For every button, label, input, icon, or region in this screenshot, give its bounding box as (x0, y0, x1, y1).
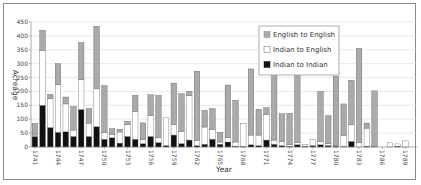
x-tick-label: 1771 (263, 150, 270, 165)
bars (32, 26, 408, 147)
bar-stack-1780 (333, 76, 339, 147)
bar-segment (140, 123, 146, 140)
bar-stack-1761 (186, 91, 192, 147)
bar-segment (109, 129, 115, 135)
bar-stack-1741 (32, 123, 38, 147)
bar-stack-1743 (48, 95, 54, 148)
bar-stack-1774 (287, 113, 293, 147)
bar-stack-1778 (318, 91, 324, 147)
bar-segment (94, 127, 100, 147)
bar-stack-1750 (102, 86, 108, 147)
stacked-bar-chart: 050100150200250300350400450 174117441747… (0, 0, 421, 185)
bar-segment (40, 50, 46, 105)
bar-stack-1771 (264, 108, 270, 147)
bar-segment (55, 132, 61, 147)
legend-swatch-white (264, 47, 270, 53)
bar-segment (271, 144, 277, 147)
x-tick-label: 1753 (125, 150, 132, 165)
bar-segment (63, 132, 69, 147)
bar-stack-1755 (140, 123, 146, 147)
bar-segment (117, 129, 123, 132)
bar-segment (102, 86, 108, 133)
bar-segment (248, 135, 254, 145)
bar-segment (71, 136, 77, 147)
bar-segment (117, 132, 123, 143)
bar-segment (156, 143, 162, 147)
bar-segment (132, 139, 138, 147)
bar-segment (94, 26, 100, 89)
legend-label: Indian to English (273, 46, 331, 54)
bar-stack-1788 (395, 144, 401, 147)
bar-segment (318, 145, 324, 147)
bar-stack-1782 (349, 80, 355, 147)
bar-segment (179, 131, 185, 144)
bar-segment (233, 100, 239, 142)
bar-segment (48, 99, 54, 128)
bar-segment (132, 95, 138, 111)
bar-segment (264, 115, 270, 141)
bar-stack-1748 (86, 108, 92, 147)
bar-segment (241, 123, 247, 146)
bar-segment (264, 140, 270, 147)
x-axis: 1741174417471750175317561759176217651768… (31, 147, 417, 165)
bar-segment (40, 30, 46, 50)
legend-item-indian-to-english: Indian to English (264, 46, 331, 54)
legend-label: Indian to Indian (273, 61, 328, 69)
bar-stack-1745 (63, 97, 69, 147)
bar-stack-1783 (356, 48, 362, 147)
x-tick-label: 1762 (194, 150, 201, 165)
y-tick-label: 0 (24, 143, 28, 150)
y-tick-label: 350 (17, 46, 29, 53)
bar-segment (179, 144, 185, 147)
bar-segment (325, 116, 331, 144)
bar-segment (171, 83, 177, 125)
bar-stack-1784 (364, 123, 370, 147)
bar-stack-1781 (341, 104, 347, 147)
bar-stack-1762 (194, 71, 200, 147)
bar-segment (364, 123, 370, 128)
bar-segment (86, 136, 92, 147)
bar-segment (109, 134, 115, 138)
bar-stack-1770 (256, 109, 262, 147)
bar-segment (364, 128, 370, 146)
bar-segment (132, 111, 138, 139)
bar-stack-1759 (171, 83, 177, 147)
x-tick-label: 1774 (287, 150, 294, 165)
bar-segment (78, 80, 84, 110)
bar-segment (148, 116, 154, 137)
legend-label: English to English (273, 31, 335, 39)
bar-segment (333, 76, 339, 145)
bar-segment (156, 95, 162, 138)
bar-stack-1765 (217, 132, 223, 147)
bar-segment (318, 91, 324, 141)
bar-segment (55, 85, 61, 133)
bar-segment (102, 139, 108, 147)
legend-swatch-gray (264, 32, 270, 38)
bar-segment (225, 138, 231, 142)
bar-segment (125, 121, 131, 124)
bar-segment (217, 142, 223, 144)
bar-segment (217, 144, 223, 147)
bar-segment (279, 141, 285, 145)
legend-swatch-black (264, 62, 270, 68)
bar-stack-1754 (132, 95, 138, 147)
bar-stack-1749 (94, 26, 100, 147)
bar-segment (194, 141, 200, 146)
bar-segment (102, 132, 108, 139)
bar-segment (156, 138, 162, 143)
x-tick-label: 1765 (217, 150, 224, 165)
bar-stack-1752 (117, 129, 123, 147)
bar-segment (287, 145, 293, 146)
bar-segment (287, 113, 293, 144)
bar-segment (279, 114, 285, 142)
bar-segment (387, 143, 393, 147)
bar-segment (86, 108, 92, 123)
bar-segment (117, 143, 123, 147)
y-tick-label: 150 (17, 101, 29, 108)
bar-segment (403, 141, 409, 147)
y-tick-label: 400 (17, 32, 29, 39)
y-tick-label: 100 (17, 115, 29, 122)
bar-segment (78, 110, 84, 148)
bar-segment (140, 140, 146, 144)
bar-segment (32, 135, 38, 136)
